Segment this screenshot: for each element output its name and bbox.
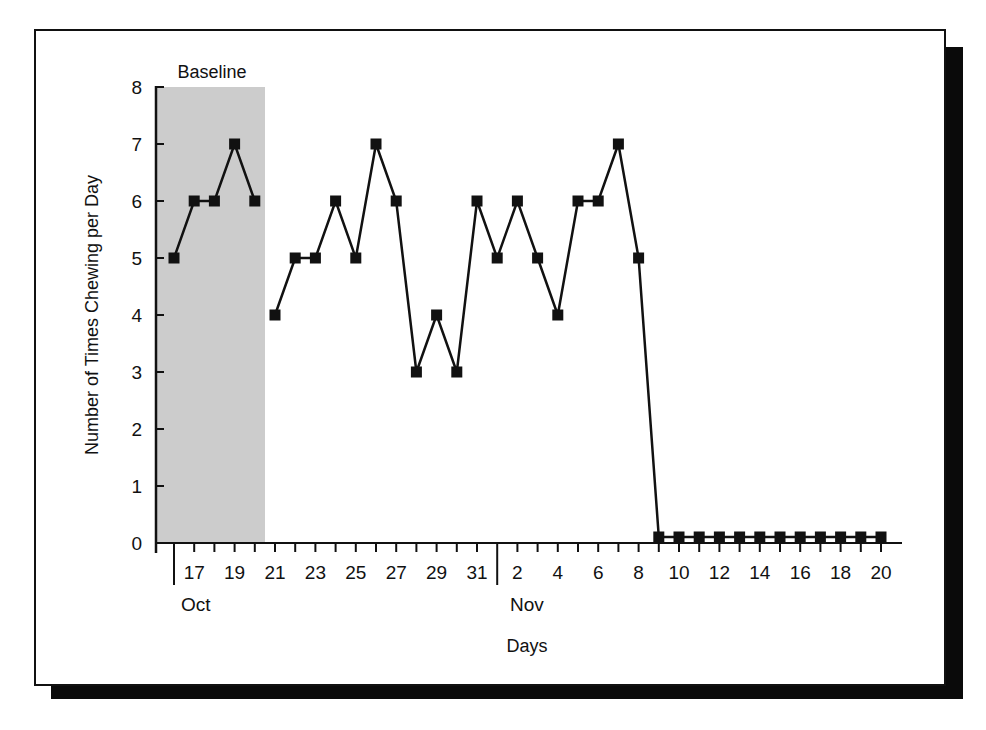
data-point-marker	[815, 532, 826, 543]
x-tick-label: 2	[512, 562, 523, 583]
x-tick-label: 23	[305, 562, 326, 583]
x-tick-label: 12	[709, 562, 730, 583]
y-axis-title: Number of Times Chewing per Day	[82, 175, 102, 455]
x-tick-label: 25	[345, 562, 366, 583]
data-point-marker	[876, 532, 887, 543]
y-tick-label: 4	[131, 305, 142, 326]
x-axis-title: Days	[506, 636, 547, 656]
data-point-marker	[855, 532, 866, 543]
data-point-marker	[371, 139, 382, 150]
data-point-marker	[573, 196, 584, 207]
x-tick-label: 10	[668, 562, 689, 583]
baseline-shade	[157, 87, 265, 543]
data-point-marker	[169, 253, 180, 264]
data-point-marker	[754, 532, 765, 543]
data-point-marker	[674, 532, 685, 543]
data-lines	[174, 144, 881, 537]
x-tick-label: 17	[184, 562, 205, 583]
data-point-marker	[633, 253, 644, 264]
baseline-shaded-region	[157, 87, 265, 543]
data-point-marker	[189, 196, 200, 207]
data-point-marker	[593, 196, 604, 207]
data-point-marker	[411, 367, 422, 378]
y-tick-label: 5	[131, 248, 142, 269]
x-axis-ticks: 17192123252729312468101214161820	[184, 543, 892, 583]
data-point-marker	[391, 196, 402, 207]
data-markers	[169, 139, 887, 543]
data-point-marker	[734, 532, 745, 543]
data-point-marker	[512, 196, 523, 207]
data-point-marker	[290, 253, 301, 264]
y-tick-label: 1	[131, 476, 142, 497]
y-tick-label: 3	[131, 362, 142, 383]
data-point-marker	[835, 532, 846, 543]
y-tick-label: 7	[131, 134, 142, 155]
data-point-marker	[451, 367, 462, 378]
data-point-marker	[653, 532, 664, 543]
data-point-marker	[270, 310, 281, 321]
x-tick-label: 4	[553, 562, 564, 583]
x-tick-label: 14	[749, 562, 771, 583]
y-tick-label: 2	[131, 419, 142, 440]
x-tick-label: 19	[224, 562, 245, 583]
x-tick-label: 20	[870, 562, 891, 583]
data-point-marker	[209, 196, 220, 207]
data-point-marker	[775, 532, 786, 543]
axes	[156, 86, 902, 585]
data-point-marker	[431, 310, 442, 321]
data-point-marker	[613, 139, 624, 150]
data-point-marker	[249, 196, 260, 207]
data-point-marker	[310, 253, 321, 264]
x-tick-label: 31	[466, 562, 487, 583]
data-point-marker	[229, 139, 240, 150]
y-tick-label: 8	[131, 77, 142, 98]
x-tick-label: 6	[593, 562, 604, 583]
data-point-marker	[795, 532, 806, 543]
data-point-marker	[472, 196, 483, 207]
data-point-marker	[552, 310, 563, 321]
y-tick-label: 0	[131, 533, 142, 554]
x-tick-label: 16	[790, 562, 811, 583]
data-point-marker	[330, 196, 341, 207]
x-tick-label: 27	[386, 562, 407, 583]
line-chart: Baseline 012345678 171921232527293124681…	[0, 0, 986, 730]
x-tick-label: 18	[830, 562, 851, 583]
data-point-marker	[532, 253, 543, 264]
x-tick-label: 8	[633, 562, 644, 583]
data-point-marker	[492, 253, 503, 264]
cropped-caption-fragment	[35, 722, 155, 730]
data-point-marker	[714, 532, 725, 543]
y-tick-label: 6	[131, 191, 142, 212]
x-tick-label: 21	[264, 562, 285, 583]
data-point-marker	[350, 253, 361, 264]
baseline-phase-label: Baseline	[177, 62, 246, 82]
x-tick-label: 29	[426, 562, 447, 583]
month-label-oct: Oct	[181, 594, 211, 615]
data-point-marker	[694, 532, 705, 543]
month-label-nov: Nov	[510, 594, 544, 615]
